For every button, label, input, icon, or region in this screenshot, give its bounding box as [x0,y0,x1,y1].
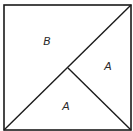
region-label-b: B [43,35,51,48]
region-label-a-bottom: A [61,100,70,113]
inner-segment [68,68,131,130]
region-label-a-right: A [103,60,112,73]
square-partition-diagram: B A A [0,0,133,131]
